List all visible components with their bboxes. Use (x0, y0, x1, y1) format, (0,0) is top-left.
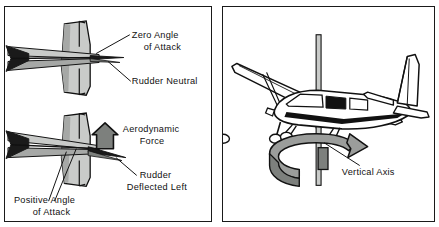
leader-zero-angle (96, 35, 130, 54)
chord-line-neutral (11, 58, 100, 59)
left-panel-graphic: Zero Angle of Attack Rudder Neutral (5, 7, 211, 221)
label-vertical-axis: Vertical Axis (342, 167, 395, 177)
cabin-window-2 (350, 98, 368, 110)
leader-rudder-neutral (108, 61, 131, 81)
rudder-neutral-shadow (90, 59, 120, 63)
label-positive-angle-line2: of Attack (33, 207, 71, 217)
label-positive-angle-line1: Positive Angle (14, 195, 75, 205)
right-main-wheel (223, 134, 229, 143)
rotation-ribbon-tail (318, 148, 328, 170)
figure-root: Zero Angle of Attack Rudder Neutral (0, 0, 439, 227)
leader-rudder-deflected (116, 158, 137, 176)
nose-spinner (266, 108, 275, 116)
cabin-window-1 (326, 96, 346, 109)
label-zero-angle-line1: Zero Angle (132, 30, 179, 40)
label-rudder-neutral: Rudder Neutral (132, 76, 198, 86)
airplane-illustration (223, 55, 429, 144)
label-aerodynamic-force-line2: Force (140, 136, 165, 146)
label-rudder-deflected-line2: Deflected Left (127, 182, 187, 192)
left-panel: Zero Angle of Attack Rudder Neutral (4, 6, 212, 222)
rudder-deflected-diagram: Aerodynamic Force Rudder Deflected Left … (6, 113, 187, 217)
force-arrow-shape (92, 123, 118, 149)
rotation-arrowhead (347, 134, 368, 158)
nose-gear-strut (276, 122, 280, 136)
label-zero-angle-line2: of Attack (144, 42, 182, 52)
right-panel: Vertical Axis (222, 6, 435, 222)
aerodynamic-force-arrow (92, 123, 118, 149)
label-rudder-deflected-line1: Rudder (140, 170, 172, 180)
label-aerodynamic-force-line1: Aerodynamic (123, 124, 180, 134)
rudder-neutral-diagram: Zero Angle of Attack Rudder Neutral (6, 21, 198, 95)
right-panel-graphic: Vertical Axis (223, 7, 434, 221)
